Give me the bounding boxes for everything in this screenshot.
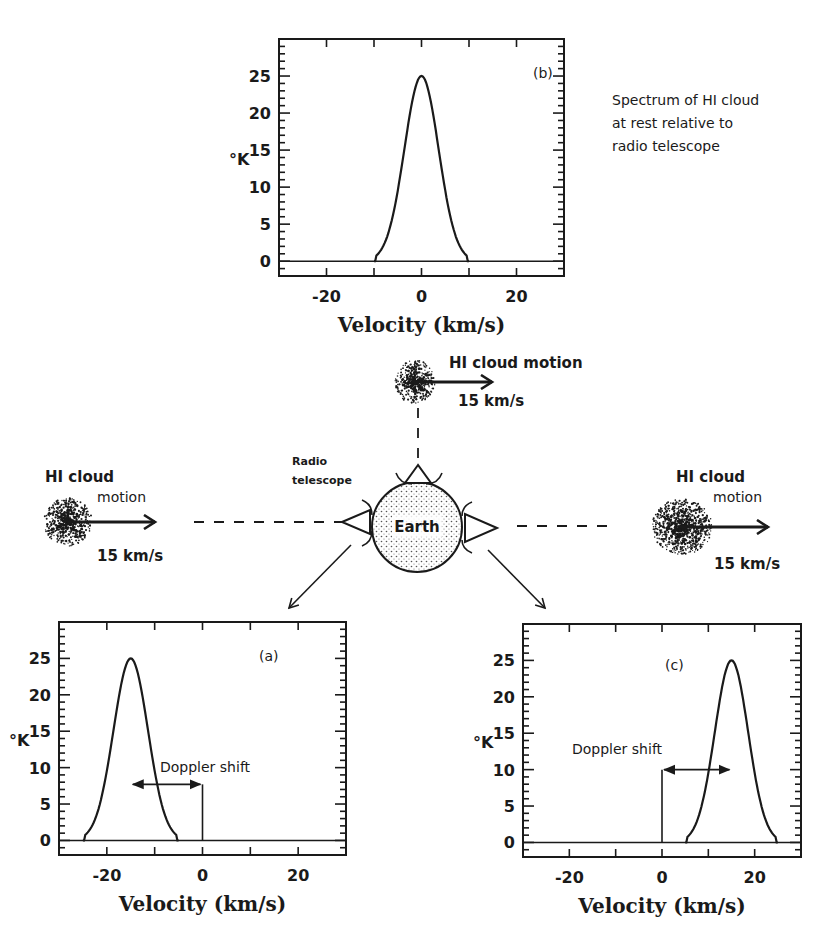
right-hi-cloud-group: HI cloud motion 15 km/s (517, 468, 780, 573)
note-line-3: radio telescope (612, 138, 720, 154)
spectrum-curve (83, 658, 179, 840)
y-tick-label: 5 (260, 215, 271, 234)
left-cloud-label-line-2: motion (97, 489, 146, 505)
spectrum-curve (685, 660, 778, 842)
doppler-shift-label: Doppler shift (160, 759, 251, 775)
top-cloud-speed: 15 km/s (458, 392, 524, 410)
left-cloud-speed: 15 km/s (97, 547, 163, 565)
right-cloud-label-line-2: motion (713, 489, 762, 505)
y-tick-label: 0 (260, 252, 271, 271)
rest-spectrum-note: Spectrum of HI cloud at rest relative to… (612, 92, 759, 154)
y-tick-label: 20 (493, 688, 515, 707)
arrow-to-plot-a (289, 545, 351, 608)
note-line-2: at rest relative to (612, 115, 733, 131)
right-cloud-label-line-1: HI cloud (676, 468, 745, 486)
x-tick-label: -20 (555, 868, 584, 887)
y-tick-label: 5 (504, 797, 515, 816)
panel-label: (c) (665, 657, 684, 673)
x-tick-label: 20 (287, 866, 309, 885)
y-tick-label: 15 (493, 724, 515, 743)
left-cloud-label-line-1: HI cloud (45, 468, 114, 486)
y-tick-label: 15 (29, 722, 51, 741)
y-tick-label: 25 (493, 651, 515, 670)
y-tick-label: 5 (40, 795, 51, 814)
panel-label: (a) (259, 648, 279, 664)
radio-telescope-left-icon (342, 500, 372, 546)
x-tick-label: 0 (416, 287, 427, 306)
y-tick-label: 15 (249, 141, 271, 160)
x-axis-title: Velocity (km/s) (118, 892, 286, 916)
top-cloud-label: HI cloud motion (449, 354, 583, 372)
earth-label: Earth (394, 518, 440, 536)
y-tick-label: 10 (493, 761, 515, 780)
radio-telescope-label-line-1: Radio (292, 455, 328, 468)
top-hi-cloud-group: HI cloud motion 15 km/s (395, 354, 583, 460)
y-axis-title: °K (9, 731, 30, 750)
x-axis-title: Velocity (km/s) (337, 313, 505, 337)
arrow-to-plot-c (488, 550, 545, 608)
y-tick-label: 20 (29, 686, 51, 705)
spectrum-plot-a: 0510152025-20020Velocity (km/s)°K(a)Dopp… (9, 622, 346, 916)
spectrum-plot-c: 0510152025-20020Velocity (km/s)°K(c)Dopp… (473, 624, 801, 918)
radio-telescope-right-icon (462, 502, 497, 553)
x-tick-label: -20 (92, 866, 121, 885)
y-tick-label: 0 (40, 831, 51, 850)
spectrum-plot-b: 0510152025-20020Velocity (km/s)°K(b) (229, 39, 564, 337)
note-line-1: Spectrum of HI cloud (612, 92, 759, 108)
x-tick-label: 20 (505, 287, 527, 306)
plot-frame (279, 39, 564, 276)
doppler-shift-label: Doppler shift (572, 741, 663, 757)
radio-telescope-label-line-2: telescope (292, 474, 352, 487)
x-tick-label: 0 (197, 866, 208, 885)
y-tick-label: 25 (249, 67, 271, 86)
x-tick-label: 20 (744, 868, 766, 887)
spectrum-curve (374, 76, 469, 261)
y-tick-label: 10 (249, 178, 271, 197)
y-tick-label: 0 (504, 833, 515, 852)
y-tick-label: 25 (29, 649, 51, 668)
panel-label: (b) (533, 65, 553, 81)
y-tick-label: 20 (249, 104, 271, 123)
right-cloud-speed: 15 km/s (714, 555, 780, 573)
x-tick-label: 0 (656, 868, 667, 887)
y-axis-title: °K (473, 733, 494, 752)
y-axis-title: °K (229, 150, 250, 169)
x-tick-label: -20 (312, 287, 341, 306)
earth-group: Earth Radio telescope (289, 455, 545, 608)
x-axis-title: Velocity (km/s) (577, 894, 745, 918)
radio-telescope-top-icon (396, 465, 442, 484)
y-tick-label: 10 (29, 759, 51, 778)
hi-doppler-figure: 0510152025-20020Velocity (km/s)°K(b) 051… (0, 0, 826, 936)
